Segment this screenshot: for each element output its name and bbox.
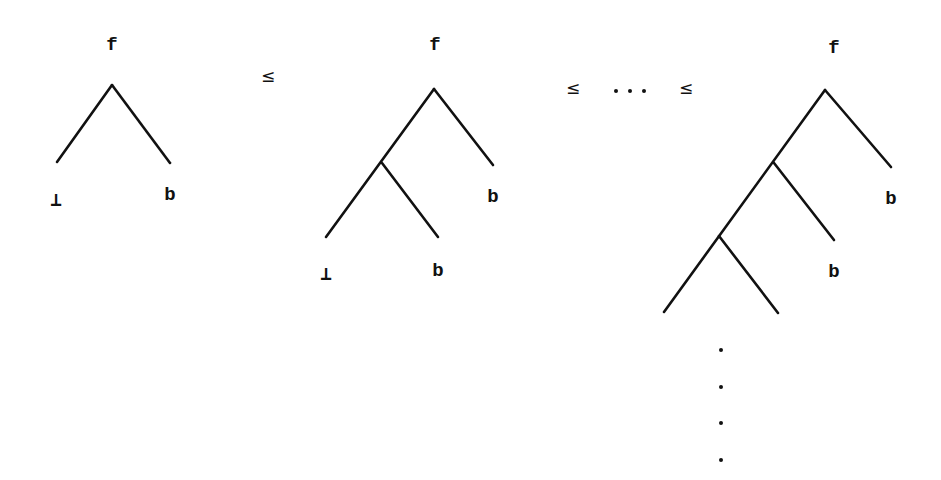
tree-2-root-label: f bbox=[429, 34, 440, 56]
tree-3: f b b bbox=[664, 37, 897, 462]
tree-1-bottom-label: ⊥ bbox=[50, 190, 61, 212]
tree-1-root-label: f bbox=[106, 34, 117, 56]
tree-2-b-label: b bbox=[487, 186, 498, 208]
tree-2-inner-b-label: b bbox=[432, 260, 443, 282]
ellipsis-dots bbox=[614, 89, 646, 93]
tree-3-inner-b-label: b bbox=[828, 261, 839, 283]
less-equal-symbol-2: ≤ bbox=[566, 78, 580, 98]
tree-3-second-right-edge bbox=[774, 163, 834, 240]
tree-1-right-edge bbox=[112, 85, 170, 163]
less-equal-symbol-3: ≤ bbox=[679, 78, 693, 98]
tree-3-b-label: b bbox=[885, 188, 896, 210]
tree-1-left-edge bbox=[57, 85, 112, 162]
tree-3-right-edge bbox=[825, 90, 891, 167]
tree-3-left-spine-edge bbox=[664, 90, 825, 312]
tree-2-inner-right-edge bbox=[382, 163, 438, 237]
tree-chain-diagram: f ⊥ b ≤ f b b ⊥ ≤ ≤ f b b bbox=[0, 0, 941, 480]
tree-3-root-label: f bbox=[828, 37, 839, 59]
tree-2-bottom-label: ⊥ bbox=[320, 264, 331, 286]
tree-1-b-label: b bbox=[164, 184, 175, 206]
tree-2: f b b ⊥ bbox=[320, 34, 498, 286]
tree-3-third-right-edge bbox=[719, 236, 778, 313]
less-equal-symbol-1: ≤ bbox=[261, 66, 275, 86]
tree-2-left-spine-edge bbox=[326, 89, 434, 237]
vertical-ellipsis-icon bbox=[719, 348, 723, 462]
tree-2-right-edge bbox=[434, 89, 493, 165]
tree-1: f ⊥ b bbox=[50, 34, 175, 212]
